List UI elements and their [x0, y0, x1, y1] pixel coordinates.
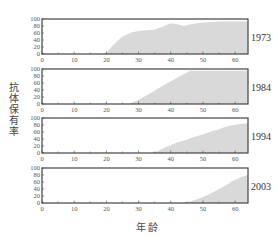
panel-year-label: 1994 — [251, 131, 271, 142]
x-tick-label: 0 — [40, 56, 43, 63]
x-tick-label: 60 — [232, 205, 239, 212]
y-tick-label: 80 — [34, 121, 41, 128]
y-tick-label: 40 — [34, 86, 41, 93]
x-tick-label: 10 — [71, 56, 78, 63]
x-tick-label: 20 — [103, 205, 110, 212]
y-tick-label: 100 — [30, 114, 40, 121]
x-tick-label: 30 — [135, 155, 142, 162]
y-tick-label: 40 — [34, 135, 41, 142]
x-tick-label: 20 — [103, 155, 110, 162]
area-series — [42, 21, 248, 54]
panel-1973: 02040608010001020304050601973 — [30, 15, 271, 63]
x-tick-label: 10 — [71, 155, 78, 162]
x-tick-label: 20 — [103, 106, 110, 113]
y-tick-label: 40 — [34, 36, 41, 43]
x-tick-label: 50 — [200, 106, 207, 113]
x-tick-label: 30 — [135, 106, 142, 113]
y-tick-label: 60 — [34, 29, 41, 36]
y-tick-label: 100 — [30, 164, 40, 171]
y-tick-label: 100 — [30, 65, 40, 72]
x-tick-label: 40 — [168, 106, 175, 113]
x-axis-label: 年龄 — [136, 219, 160, 234]
x-tick-label: 50 — [200, 155, 207, 162]
panel-1984: 02040608010001020304050601984 — [30, 65, 271, 113]
y-tick-label: 40 — [34, 185, 41, 192]
x-tick-label: 40 — [168, 205, 175, 212]
panel-2003: 02040608010001020304050602003 — [30, 164, 271, 212]
x-tick-label: 30 — [135, 56, 142, 63]
y-tick-label: 60 — [34, 128, 41, 135]
x-tick-label: 0 — [40, 106, 43, 113]
x-tick-label: 60 — [232, 106, 239, 113]
y-tick-label: 20 — [34, 142, 41, 149]
y-axis-label: 抗体保有率 — [4, 82, 18, 137]
x-tick-label: 60 — [232, 155, 239, 162]
x-tick-label: 0 — [40, 205, 43, 212]
x-tick-label: 30 — [135, 205, 142, 212]
x-tick-label: 10 — [71, 205, 78, 212]
x-tick-label: 0 — [40, 155, 43, 162]
y-tick-label: 60 — [34, 79, 41, 86]
x-tick-label: 50 — [200, 205, 207, 212]
x-tick-label: 60 — [232, 56, 239, 63]
y-tick-label: 80 — [34, 22, 41, 29]
x-tick-label: 20 — [103, 56, 110, 63]
area-series — [42, 71, 248, 104]
area-series — [42, 175, 248, 203]
x-tick-label: 10 — [71, 106, 78, 113]
x-tick-label: 50 — [200, 56, 207, 63]
y-tick-label: 60 — [34, 178, 41, 185]
y-tick-label: 20 — [34, 93, 41, 100]
area-series — [42, 123, 248, 153]
y-tick-label: 80 — [34, 171, 41, 178]
panel-year-label: 2003 — [251, 181, 271, 192]
panel-year-label: 1984 — [251, 82, 271, 93]
x-tick-label: 40 — [168, 155, 175, 162]
y-tick-label: 100 — [30, 15, 40, 22]
chart-canvas: 0204060801000102030405060197302040608010… — [0, 0, 280, 238]
panel-1994: 02040608010001020304050601994 — [30, 114, 271, 162]
panel-year-label: 1973 — [251, 32, 271, 43]
y-tick-label: 20 — [34, 43, 41, 50]
y-tick-label: 20 — [34, 192, 41, 199]
y-tick-label: 80 — [34, 72, 41, 79]
x-tick-label: 40 — [168, 56, 175, 63]
